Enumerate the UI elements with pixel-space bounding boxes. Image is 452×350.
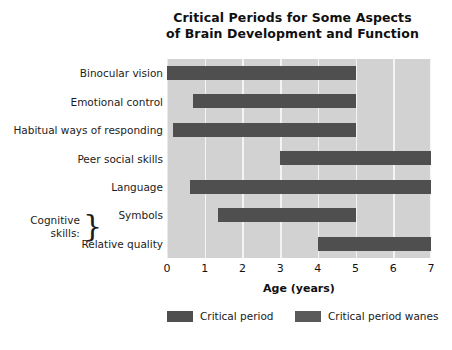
legend-item-critical-period: Critical period bbox=[167, 310, 274, 323]
x-axis-tick-6: 6 bbox=[383, 262, 403, 276]
y-axis-label-peer-social-skills: Peer social skills bbox=[0, 153, 163, 165]
y-axis-label-emotional-control: Emotional control bbox=[0, 96, 163, 108]
chart-title-line-2: of Brain Development and Function bbox=[150, 26, 435, 42]
y-axis-label-language: Language bbox=[0, 181, 163, 193]
x-axis-title: Age (years) bbox=[167, 282, 431, 295]
x-axis-tick-5: 5 bbox=[346, 262, 366, 276]
bar-peer-social-skills bbox=[280, 151, 431, 165]
bar-row bbox=[167, 201, 431, 229]
bar-row bbox=[167, 144, 431, 172]
x-axis-tick-1: 1 bbox=[195, 262, 215, 276]
legend-swatch-critical-period bbox=[167, 311, 193, 322]
legend-label-critical-period-wanes: Critical period wanes bbox=[328, 310, 438, 323]
bar-row bbox=[167, 87, 431, 115]
plot-area bbox=[167, 59, 431, 258]
chart-title-line-1: Critical Periods for Some Aspects bbox=[150, 10, 435, 26]
cognitive-skills-annotation: Cognitive skills: } bbox=[16, 204, 102, 250]
bar-row bbox=[167, 173, 431, 201]
bar-habitual-ways-of-responding bbox=[173, 123, 356, 137]
legend-item-critical-period-wanes: Critical period wanes bbox=[295, 310, 438, 323]
cognitive-skills-line-2: skills: bbox=[30, 227, 80, 241]
cognitive-skills-line-1: Cognitive bbox=[30, 214, 80, 228]
x-axis-tick-7: 7 bbox=[421, 262, 441, 276]
y-axis-label-binocular-vision: Binocular vision bbox=[0, 67, 163, 79]
legend-label-critical-period: Critical period bbox=[200, 310, 274, 323]
bar-row bbox=[167, 116, 431, 144]
curly-brace-icon: } bbox=[83, 211, 102, 241]
x-axis-ticks: 01234567 bbox=[167, 262, 431, 278]
bar-symbols bbox=[218, 208, 356, 222]
bar-emotional-control bbox=[193, 94, 355, 108]
page-title: Critical Periods for Some Aspects of Bra… bbox=[150, 10, 435, 42]
x-axis-tick-0: 0 bbox=[157, 262, 177, 276]
y-axis-label-habitual-ways-of-responding: Habitual ways of responding bbox=[0, 124, 163, 136]
bar-relative-quality bbox=[318, 237, 431, 251]
bar-language bbox=[190, 180, 431, 194]
chart-legend: Critical period Critical period wanes bbox=[167, 310, 433, 328]
x-axis-tick-3: 3 bbox=[270, 262, 290, 276]
bar-row bbox=[167, 59, 431, 87]
bar-row bbox=[167, 230, 431, 258]
x-axis-tick-4: 4 bbox=[308, 262, 328, 276]
x-axis-tick-2: 2 bbox=[232, 262, 252, 276]
legend-swatch-critical-period-wanes bbox=[295, 311, 321, 322]
bar-binocular-vision bbox=[167, 66, 356, 80]
cognitive-skills-label: Cognitive skills: bbox=[30, 214, 80, 241]
